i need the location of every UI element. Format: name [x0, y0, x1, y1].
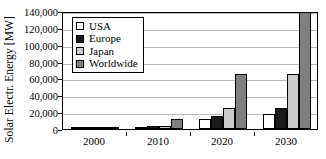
bar-japan-2020 — [223, 108, 235, 129]
bar-usa-2020 — [199, 119, 211, 129]
legend-swatch-japan-icon — [76, 47, 84, 55]
y-tick-mark — [58, 96, 62, 97]
bar-group-2020 — [191, 13, 255, 129]
bar-europe-2000 — [83, 127, 95, 129]
legend-item-worldwide: Worldwide — [76, 58, 138, 71]
legend-item-usa: USA — [76, 20, 138, 33]
bar-europe-2020 — [211, 116, 223, 129]
y-tick-label: 40,000 — [29, 91, 58, 102]
solar-energy-bar-chart: Solar Electr. Energy [MW] 140,000120,000… — [0, 0, 326, 159]
x-tick-label-2000: 2000 — [83, 135, 105, 147]
x-axis-tick-labels: 2000201020202030 — [62, 132, 318, 152]
x-tick-mark — [126, 132, 127, 136]
legend-item-europe: Europe — [76, 33, 138, 46]
legend-label: USA — [89, 21, 111, 32]
legend-swatch-worldwide-icon — [76, 60, 84, 68]
x-tick-label-2020: 2020 — [211, 135, 233, 147]
bar-usa-2030 — [263, 114, 275, 129]
y-tick-mark — [58, 29, 62, 30]
bar-group-2030 — [255, 13, 318, 129]
y-tick-mark — [58, 12, 62, 13]
y-tick-label: 120,000 — [24, 23, 58, 34]
x-tick-label-2010: 2010 — [147, 135, 169, 147]
y-tick-mark — [58, 79, 62, 80]
y-axis-tick-labels: 140,000120,000100,00080,00060,00040,0002… — [16, 0, 61, 159]
legend-label: Worldwide — [89, 58, 138, 69]
legend-item-japan: Japan — [76, 45, 138, 58]
y-tick-label: 20,000 — [29, 108, 58, 119]
x-tick-label-2030: 2030 — [275, 135, 297, 147]
bar-worldwide-2020 — [235, 74, 247, 129]
bar-usa-2010 — [135, 127, 147, 129]
legend-label: Japan — [89, 46, 114, 57]
x-tick-mark — [190, 132, 191, 136]
y-tick-mark — [58, 63, 62, 64]
y-tick-label: 80,000 — [29, 57, 58, 68]
bar-japan-2000 — [95, 127, 107, 129]
bar-europe-2010 — [147, 126, 159, 129]
y-tick-label: 60,000 — [29, 74, 58, 85]
y-tick-mark — [58, 113, 62, 114]
y-tick-mark — [58, 46, 62, 47]
bar-worldwide-2000 — [107, 127, 119, 129]
bar-worldwide-2010 — [171, 119, 183, 129]
bar-japan-2010 — [159, 126, 171, 129]
legend-label: Europe — [89, 33, 121, 44]
bar-japan-2030 — [287, 74, 299, 129]
y-tick-label: 140,000 — [24, 7, 58, 18]
y-tick-label: 100,000 — [24, 40, 58, 51]
chart-legend: USAEuropeJapanWorldwide — [72, 17, 144, 73]
x-tick-mark — [254, 132, 255, 136]
y-tick-mark — [58, 130, 62, 131]
bar-europe-2030 — [275, 108, 287, 129]
legend-swatch-europe-icon — [76, 35, 84, 43]
bar-worldwide-2030 — [299, 12, 311, 129]
bar-usa-2000 — [71, 127, 83, 129]
legend-swatch-usa-icon — [76, 22, 84, 30]
